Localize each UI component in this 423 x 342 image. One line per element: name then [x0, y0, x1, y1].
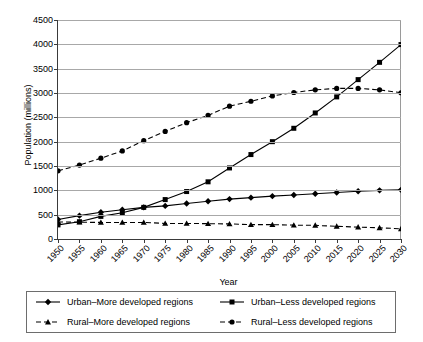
x-tick-label: 1995 [234, 243, 259, 268]
data-point-marker [312, 191, 318, 197]
data-point-marker [248, 152, 253, 157]
gridline [58, 142, 401, 143]
data-point-marker [270, 93, 275, 98]
data-point-marker [227, 104, 232, 109]
y-tick-label: 4500 [33, 15, 53, 25]
y-tick-mark [54, 190, 58, 191]
y-tick-mark [54, 117, 58, 118]
data-point-marker [184, 120, 189, 125]
legend-marker-diamond-icon [35, 297, 61, 307]
data-point-marker [313, 110, 318, 115]
x-tick-label: 1950 [41, 243, 66, 268]
x-axis-title: Year [57, 277, 400, 287]
data-point-marker [58, 168, 61, 173]
chart-legend: Urban–More developed regions Urban–Less … [26, 291, 396, 333]
x-tick-label: 2005 [276, 243, 301, 268]
data-point-marker [248, 99, 253, 104]
x-tick-label: 1955 [62, 243, 87, 268]
data-point-marker [183, 200, 189, 206]
data-point-marker [162, 203, 168, 209]
gridline [58, 166, 401, 167]
data-point-marker [334, 94, 339, 99]
y-tick-mark [54, 20, 58, 21]
gridline [58, 215, 401, 216]
y-tick-label: 4000 [33, 39, 53, 49]
series-triangle [58, 219, 401, 231]
x-tick-label: 1985 [191, 243, 216, 268]
data-point-marker [356, 77, 361, 82]
data-point-marker [98, 156, 103, 161]
y-tick-mark [54, 142, 58, 143]
y-tick-label: 2000 [33, 137, 53, 147]
gridline [58, 20, 401, 21]
x-tick-label: 1990 [212, 243, 237, 268]
data-point-marker [205, 198, 211, 204]
data-point-marker [248, 194, 254, 200]
x-tick-label: 2030 [384, 243, 409, 268]
x-tick-label: 2010 [298, 243, 323, 268]
legend-label: Rural–Less developed regions [251, 318, 373, 327]
gridline [58, 93, 401, 94]
x-tick-label: 1980 [169, 243, 194, 268]
data-point-marker [291, 126, 296, 131]
y-tick-label: 3500 [33, 64, 53, 74]
y-tick-mark [54, 69, 58, 70]
x-tick-label: 2020 [341, 243, 366, 268]
y-tick-label: 1000 [33, 185, 53, 195]
y-tick-label: 500 [38, 210, 53, 220]
y-tick-label: 0 [48, 234, 53, 244]
x-tick-label: 1970 [126, 243, 151, 268]
y-axis-tick-labels: 050010001500200025003000350040004500 [18, 14, 53, 240]
x-tick-label: 2025 [362, 243, 387, 268]
data-point-marker [229, 319, 234, 324]
data-point-marker [377, 87, 382, 92]
x-axis-tick-labels: 1950195519601965197019751980198519901995… [57, 243, 400, 277]
data-point-marker [141, 205, 146, 210]
y-tick-mark [54, 93, 58, 94]
data-point-marker [206, 179, 211, 184]
y-tick-label: 2500 [33, 112, 53, 122]
legend-label: Urban–Less developed regions [251, 298, 376, 307]
population-line-chart: Population (millions) 050010001500200025… [0, 0, 423, 342]
x-tick-label: 1960 [83, 243, 108, 268]
data-point-marker [313, 87, 318, 92]
legend-item-urban-more: Urban–More developed regions [27, 297, 211, 307]
data-point-marker [45, 299, 51, 305]
data-point-marker [120, 148, 125, 153]
legend-label: Rural–More developed regions [67, 318, 190, 327]
gridline [58, 117, 401, 118]
x-tick-label: 1965 [105, 243, 130, 268]
y-tick-label: 3000 [33, 88, 53, 98]
legend-item-rural-more: Rural–More developed regions [27, 317, 211, 327]
data-point-marker [226, 196, 232, 202]
series-line [58, 88, 401, 170]
x-tick-label: 1975 [148, 243, 173, 268]
gridline [58, 44, 401, 45]
x-tick-label: 2015 [319, 243, 344, 268]
legend-marker-triangle-icon [35, 317, 61, 327]
data-point-marker [163, 129, 168, 134]
data-point-marker [230, 300, 235, 305]
y-tick-mark [54, 44, 58, 45]
y-tick-mark [54, 166, 58, 167]
legend-item-rural-less: Rural–Less developed regions [211, 317, 395, 327]
data-point-marker [334, 86, 339, 91]
legend-label: Urban–More developed regions [67, 298, 193, 307]
data-point-marker [356, 86, 361, 91]
series-circle [58, 86, 401, 174]
data-point-marker [377, 60, 382, 65]
data-point-marker [163, 197, 168, 202]
legend-marker-circle-icon [219, 317, 245, 327]
legend-marker-square-icon [219, 297, 245, 307]
y-tick-mark [54, 215, 58, 216]
legend-item-urban-less: Urban–Less developed regions [211, 297, 395, 307]
data-point-marker [269, 193, 275, 199]
x-tick-label: 2000 [255, 243, 280, 268]
plot-area [57, 20, 401, 240]
series-diamond [58, 187, 401, 223]
gridline [58, 190, 401, 191]
series-lines [58, 20, 401, 239]
data-point-marker [291, 192, 297, 198]
y-tick-label: 1500 [33, 161, 53, 171]
gridline [58, 69, 401, 70]
